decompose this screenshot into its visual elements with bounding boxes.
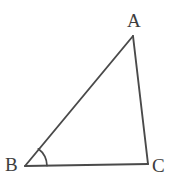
triangle-diagram-svg (0, 0, 193, 179)
triangle-side-bc (25, 164, 148, 166)
angle-arc-b (38, 149, 47, 166)
triangle-side-ca (133, 36, 148, 164)
geometry-figure-canvas: A B C (0, 0, 193, 179)
triangle-side-ab (25, 36, 133, 166)
vertex-label-c: C (152, 156, 165, 175)
vertex-label-b: B (5, 155, 18, 174)
vertex-label-a: A (127, 11, 141, 30)
